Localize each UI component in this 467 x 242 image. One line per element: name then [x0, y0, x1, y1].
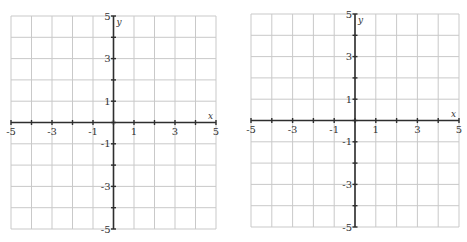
y-tick-label: 3	[104, 53, 110, 64]
x-tick-label: 3	[414, 124, 420, 135]
y-tick-label: 5	[104, 11, 110, 22]
y-tick-label: -3	[342, 179, 352, 190]
x-tick-label: -1	[329, 124, 339, 135]
x-axis-label: x	[208, 111, 213, 121]
y-axis-label: y	[357, 15, 364, 25]
x-tick-label: -3	[288, 124, 298, 135]
y-tick-label: -3	[101, 181, 111, 192]
y-tick-label: 1	[104, 96, 110, 107]
x-tick-label: -3	[47, 126, 57, 137]
x-tick-label: 5	[213, 126, 219, 137]
coordinate-plane-2: -5-3-1135531-1-3-5xy	[246, 9, 462, 233]
y-tick-label: 5	[346, 9, 352, 20]
x-tick-label: -5	[6, 126, 16, 137]
y-tick-label: 1	[346, 94, 352, 105]
y-tick-label: -1	[342, 136, 352, 147]
y-tick-label: -1	[101, 138, 111, 149]
y-tick-label: -5	[101, 224, 111, 235]
x-tick-label: 3	[172, 126, 178, 137]
x-tick-label: 1	[131, 126, 137, 137]
y-axis-label: y	[116, 17, 123, 27]
y-tick-label: 3	[346, 51, 352, 62]
x-tick-label: -5	[246, 124, 256, 135]
coordinate-planes: -5-3-1135531-1-3-5xy-5-3-1135531-1-3-5xy	[0, 0, 467, 242]
coordinate-plane-1: -5-3-1135531-1-3-5xy	[6, 11, 219, 235]
y-tick-label: -5	[342, 222, 352, 233]
x-tick-label: 5	[456, 124, 462, 135]
x-tick-label: 1	[373, 124, 379, 135]
x-axis-label: x	[451, 109, 456, 119]
x-tick-label: -1	[88, 126, 98, 137]
